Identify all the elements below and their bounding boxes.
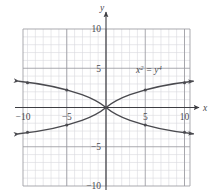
x-axis-label: x xyxy=(202,103,208,113)
x-tick-label-5: 5 xyxy=(143,112,148,122)
y-tick-label-neg5: −5 xyxy=(91,142,101,152)
point-marker xyxy=(183,131,186,134)
x-tick-label-neg5: −5 xyxy=(62,112,72,122)
y-tick-label-5: 5 xyxy=(96,64,101,74)
x-tick-label-10: 10 xyxy=(180,112,190,122)
equation-annotation: x2=y4 xyxy=(135,64,163,75)
coordinate-graph-figure: −10 −5 5 10 10 5 −5 −10 x y x2=y4 xyxy=(0,0,220,196)
point-marker xyxy=(26,81,29,84)
y-tick-label-neg10: −10 xyxy=(86,181,101,191)
y-axis-label: y xyxy=(99,3,105,13)
point-marker xyxy=(183,81,186,84)
point-marker xyxy=(65,124,68,127)
equation-relation: = xyxy=(146,65,152,75)
graph-canvas: −10 −5 5 10 10 5 −5 −10 x y x2=y4 xyxy=(0,0,220,196)
y-tick-label-10: 10 xyxy=(92,24,102,34)
point-marker xyxy=(65,88,68,91)
point-marker xyxy=(144,124,147,127)
point-marker xyxy=(144,88,147,91)
x-tick-label-neg10: −10 xyxy=(16,112,31,122)
point-marker xyxy=(26,131,29,134)
svg-text:x2=y4: x2=y4 xyxy=(135,64,163,75)
